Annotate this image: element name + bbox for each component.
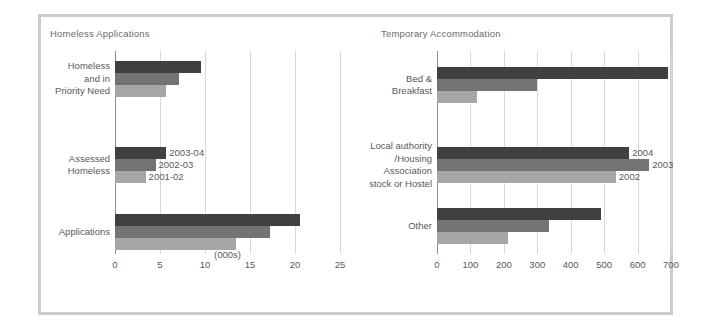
x-axis-tick-label: 5 [157,259,162,270]
bar-2002-03 [115,226,270,238]
category-label-line: Homeless [30,165,110,178]
x-axis-tick-label: 600 [630,259,646,270]
bar-2002-03 [115,73,179,85]
plot-area-right: 0100200300400500600700Bed &BreakfastLoca… [437,51,671,254]
x-axis-tick-label: 500 [596,259,612,270]
bar-group: Other [437,208,671,244]
bar-2004 [437,147,629,159]
legend-label-2004: 2004 [629,147,653,159]
category-label-line: Applications [30,226,110,239]
legend-label-2001-02: 2001-02 [146,171,184,183]
category-label-line: Other [346,220,432,233]
category-label: Applications [30,226,110,239]
x-axis-tick-label: 400 [563,259,579,270]
category-label: AssessedHomeless [30,153,110,178]
panel-title-right: Temporary Accommodation [381,28,501,39]
x-axis-tick-label: 20 [290,259,301,270]
bar-2003-04 [115,147,166,159]
bar-2001-02 [115,171,146,183]
legend-label-2002: 2002 [616,171,640,183]
bar-2004 [437,208,601,220]
bar-2002 [437,91,477,103]
bar-2002 [437,232,508,244]
chart-panel-temporary-accommodation: Temporary Accommodation 0100200300400500… [359,17,676,312]
x-axis-tick-label: 300 [529,259,545,270]
bar-group: Homelessand inPriority Need [115,61,340,97]
x-axis-tick-label: 15 [245,259,256,270]
axis-caption-left: (000s) [115,249,340,260]
category-label: Local authority/HousingAssociationstock … [346,140,432,190]
bar-2003 [437,159,649,171]
legend-label-2002-03: 2002-03 [156,159,194,171]
category-label-line: stock or Hostel [346,178,432,191]
category-label-line: /Housing [346,153,432,166]
legend-label-2003-04: 2003-04 [166,147,204,159]
x-axis-tick-label: 200 [496,259,512,270]
plot-area-left: 0510152025Homelessand inPriority NeedAss… [115,51,340,254]
x-axis-tick-label: 10 [200,259,211,270]
x-axis-tick-label: 0 [112,259,117,270]
x-axis-tick-label: 100 [462,259,478,270]
category-label-line: Local authority [346,140,432,153]
category-label: Homelessand inPriority Need [30,60,110,98]
category-label-line: Association [346,165,432,178]
bar-2003 [437,220,549,232]
chart-figure-frame: Homeless Applications 0510152025Homeless… [38,14,673,315]
bar-2001-02 [115,85,166,97]
bar-group: Applications [115,214,340,250]
category-label-line: Bed & [346,73,432,86]
category-label-line: Breakfast [346,85,432,98]
gridline [340,51,341,254]
bar-2002 [437,171,616,183]
bar-2003-04 [115,61,201,73]
x-axis-tick-label: 700 [663,259,679,270]
gridline [671,51,672,254]
bar-2003-04 [115,214,300,226]
chart-panel-homeless-applications: Homeless Applications 0510152025Homeless… [41,17,359,312]
panel-title-left: Homeless Applications [50,28,150,39]
legend-label-2003: 2003 [649,159,673,171]
x-axis-tick-label: 0 [434,259,439,270]
bar-2002-03 [115,159,156,171]
bar-2004 [437,67,668,79]
category-label-line: Assessed [30,153,110,166]
bar-2003 [437,79,537,91]
x-axis-tick-label: 25 [335,259,346,270]
category-label: Other [346,220,432,233]
category-label-line: Homeless [30,60,110,73]
category-label: Bed &Breakfast [346,73,432,98]
category-label-line: Priority Need [30,85,110,98]
bar-group: Bed &Breakfast [437,67,671,103]
category-label-line: and in [30,73,110,86]
